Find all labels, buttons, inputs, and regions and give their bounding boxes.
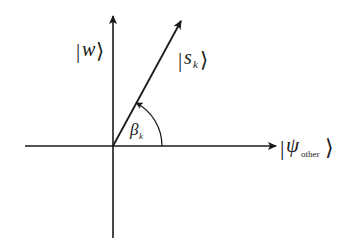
vector-sk-arrow <box>113 21 181 146</box>
ket-right-angle: ⟩ <box>325 135 334 160</box>
k-subscript: k <box>193 58 199 70</box>
psi-symbol: ψ <box>286 133 300 157</box>
ket-right-angle: ⟩ <box>200 48 208 72</box>
ket-left-bar: | <box>178 48 182 72</box>
beta-symbol: β <box>129 120 139 139</box>
ket-right-angle: ⟩ <box>96 39 104 63</box>
label-psi-other: | ψ other ⟩ <box>280 133 334 160</box>
ket-left-bar: | <box>280 135 284 160</box>
k-subscript: k <box>139 131 144 141</box>
ket-left-bar: | <box>76 39 80 63</box>
label-sk: | s k ⟩ <box>178 46 208 72</box>
s-symbol: s <box>184 46 192 68</box>
w-symbol: w <box>82 38 96 60</box>
other-subscript: other <box>301 149 320 159</box>
vector-diagram: | w ⟩ | s k ⟩ β k | ψ other ⟩ <box>0 0 344 248</box>
label-beta-k: β k <box>129 120 144 141</box>
label-w: | w ⟩ <box>76 38 104 63</box>
